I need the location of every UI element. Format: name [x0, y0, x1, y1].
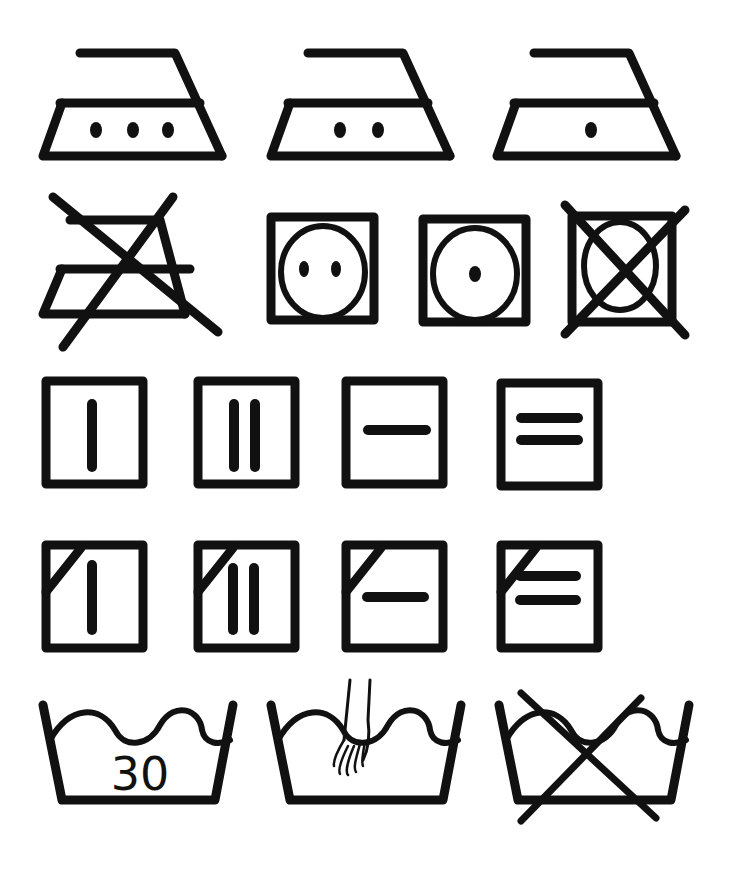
drip-dry-flat-symbol — [496, 378, 606, 488]
dot-icon — [469, 266, 481, 282]
drip-dry-flat-shade-symbol — [496, 540, 606, 650]
square-icon — [271, 217, 374, 320]
iron-icon — [43, 53, 222, 156]
dry-flat-symbol — [341, 376, 451, 486]
dot-icon — [372, 122, 384, 138]
line-dry-shade-symbol — [41, 540, 151, 650]
do-not-wash-symbol — [496, 688, 696, 828]
dot-icon — [299, 261, 309, 277]
dot-icon — [334, 122, 346, 138]
shade-line-icon — [198, 548, 233, 592]
square-icon — [198, 545, 295, 648]
iron-low-symbol — [494, 48, 684, 163]
shade-line-icon — [46, 548, 81, 592]
square-icon — [501, 383, 598, 486]
iron-icon — [271, 53, 450, 156]
drip-dry-shade-symbol — [193, 540, 303, 650]
dot-icon — [331, 261, 341, 277]
dot-icon — [585, 122, 597, 138]
wash-30-symbol: 30 — [40, 700, 240, 810]
circle-icon — [281, 226, 365, 318]
hand-wash-symbol — [268, 680, 468, 810]
do-not-iron-symbol — [40, 192, 240, 352]
dry-flat-shade-symbol — [341, 540, 451, 650]
shade-line-icon — [501, 548, 536, 592]
square-icon — [198, 381, 295, 484]
dot-icon — [90, 122, 102, 138]
line-dry-symbol — [41, 376, 151, 486]
do-not-tumble-dry-symbol — [560, 200, 700, 340]
iron-medium-symbol — [268, 48, 458, 163]
shade-line-icon — [346, 548, 381, 592]
tumble-dry-normal-symbol — [266, 212, 381, 327]
tumble-dry-low-symbol — [418, 214, 533, 329]
iron-icon — [497, 53, 676, 156]
washtub-icon — [499, 705, 689, 800]
temperature-label: 30 — [111, 747, 170, 801]
drip-dry-symbol — [193, 376, 303, 486]
dot-icon — [127, 122, 139, 138]
iron-high-symbol — [40, 48, 230, 163]
dot-icon — [162, 122, 174, 138]
